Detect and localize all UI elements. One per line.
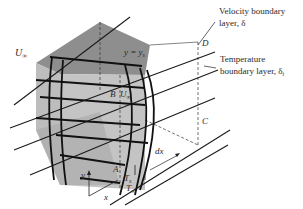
- point-c-label: C: [202, 116, 209, 126]
- dx-dimension: [150, 155, 178, 170]
- u-inf-left-label: U∞: [15, 47, 27, 60]
- temperature-leader-line: [204, 66, 216, 68]
- dx-label: dx: [155, 146, 164, 156]
- velocity-boundary-layer-label-line1: Velocity boundary: [219, 6, 286, 16]
- temperature-boundary-layer-label-line1: Temperature: [220, 54, 265, 64]
- y-equals-ys-label: y = ys: [123, 47, 146, 58]
- velocity-boundary-layer-label-line2: layer, δ: [219, 18, 245, 28]
- x-axis-label: x: [103, 192, 108, 202]
- point-d-label: D: [201, 38, 209, 48]
- point-a-label: A: [112, 164, 119, 174]
- dashed-edge-ad: [150, 42, 198, 45]
- y-axis-label: y: [80, 170, 85, 180]
- point-b-label: B: [110, 89, 116, 99]
- boundary-layer-diagram: U∞ y = ys B U∞ D C A dx y x Ts T∞ Veloci…: [0, 0, 303, 209]
- temperature-boundary-layer-label-line2: boundary layer, δt: [220, 66, 285, 77]
